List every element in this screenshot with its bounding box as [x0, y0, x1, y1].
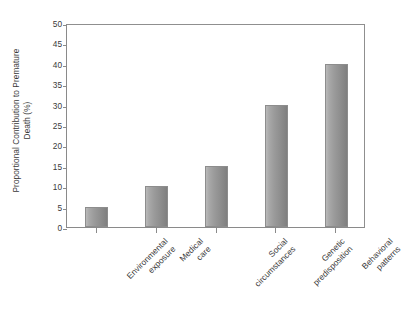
y-tick-label: 25	[42, 122, 62, 130]
y-tick-mark	[63, 168, 67, 169]
x-tick-mark	[216, 228, 217, 233]
y-tick-label: 0	[42, 224, 62, 232]
y-axis-title-line1: Proportional Contribution to Premature	[13, 48, 24, 192]
y-tick-mark	[63, 229, 67, 230]
bar	[265, 105, 288, 227]
plot-area	[66, 24, 365, 228]
y-axis-tick-labels: 05101520253035404550	[42, 24, 62, 228]
y-tick-mark	[63, 86, 67, 87]
y-tick-label: 30	[42, 101, 62, 109]
x-category-label: Geneticpredisposition	[303, 236, 354, 287]
x-category-label: Medicalcare	[177, 236, 212, 271]
y-tick-mark	[63, 25, 67, 26]
y-tick-label: 15	[42, 163, 62, 171]
y-axis-title: Proportional Contribution to Premature D…	[0, 0, 46, 240]
y-tick-mark	[63, 147, 67, 148]
bar	[85, 207, 108, 227]
bar	[145, 186, 168, 227]
x-tick-mark	[275, 228, 276, 233]
y-tick-mark	[63, 188, 67, 189]
y-tick-label: 35	[42, 81, 62, 89]
x-category-label: Environmentalexposure	[125, 236, 178, 289]
y-tick-label: 5	[42, 203, 62, 211]
y-tick-mark	[63, 127, 67, 128]
y-tick-label: 40	[42, 61, 62, 69]
bar	[325, 64, 348, 227]
y-axis-title-line2: Death (%)	[23, 48, 34, 192]
y-tick-label: 10	[42, 183, 62, 191]
y-tick-mark	[63, 45, 67, 46]
y-tick-label: 50	[42, 20, 62, 28]
x-category-label: Socialcircumstances	[244, 236, 297, 289]
x-category-label: Behavioralpatterns	[360, 236, 403, 279]
x-tick-mark	[156, 228, 157, 233]
y-tick-mark	[63, 107, 67, 108]
bar	[205, 166, 228, 227]
y-tick-mark	[63, 66, 67, 67]
x-tick-mark	[96, 228, 97, 233]
y-tick-label: 20	[42, 142, 62, 150]
y-tick-mark	[63, 209, 67, 210]
x-tick-mark	[335, 228, 336, 233]
y-tick-label: 45	[42, 40, 62, 48]
